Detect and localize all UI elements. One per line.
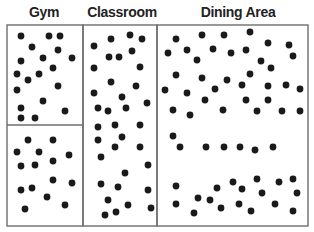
dot-dining-area bbox=[220, 107, 227, 114]
dot-dining-area bbox=[283, 82, 290, 89]
dot-gym-bottom bbox=[36, 149, 43, 156]
dot-dining-area bbox=[258, 58, 265, 65]
dot-gym-top bbox=[18, 33, 25, 40]
dot-dining-area bbox=[162, 87, 169, 94]
dot-gym-top bbox=[69, 55, 76, 62]
dot-dining-area bbox=[265, 40, 272, 47]
dot-gym-bottom bbox=[32, 162, 39, 169]
room-density-diagram bbox=[0, 0, 314, 232]
dot-dining-area bbox=[184, 90, 191, 97]
dot-classroom bbox=[139, 36, 146, 43]
dot-dining-area bbox=[187, 112, 194, 119]
dot-dining-area bbox=[212, 86, 219, 93]
dot-dining-area bbox=[276, 179, 283, 186]
dot-classroom bbox=[113, 209, 120, 216]
dot-dining-area bbox=[265, 97, 272, 104]
dot-gym-top bbox=[40, 55, 47, 62]
dot-gym-bottom bbox=[29, 185, 36, 192]
dot-classroom bbox=[127, 32, 134, 39]
dot-dining-area bbox=[239, 82, 246, 89]
dot-dining-area bbox=[173, 72, 180, 79]
dot-dining-area bbox=[221, 32, 228, 39]
dot-gym-bottom bbox=[22, 206, 29, 213]
dot-classroom bbox=[144, 100, 151, 107]
dot-classroom bbox=[91, 43, 98, 50]
dot-classroom bbox=[95, 124, 102, 131]
dot-dining-area bbox=[210, 46, 217, 53]
dot-dining-area bbox=[247, 29, 254, 36]
dot-classroom bbox=[145, 187, 152, 194]
dot-gym-bottom bbox=[50, 137, 57, 144]
dot-classroom bbox=[95, 105, 102, 112]
dot-classroom bbox=[112, 144, 119, 151]
dot-dining-area bbox=[173, 201, 180, 208]
dot-dining-area bbox=[228, 50, 235, 57]
dot-dining-area bbox=[170, 107, 177, 114]
dot-classroom bbox=[119, 94, 126, 101]
dot-classroom bbox=[98, 181, 105, 188]
dot-classroom bbox=[95, 137, 102, 144]
dot-dining-area bbox=[214, 185, 221, 192]
dot-dining-area bbox=[243, 97, 250, 104]
dot-gym-bottom bbox=[50, 177, 57, 184]
dot-gym-bottom bbox=[50, 158, 57, 165]
dot-dining-area bbox=[252, 147, 259, 154]
dot-dining-area bbox=[199, 75, 206, 82]
dot-dining-area bbox=[259, 190, 266, 197]
dot-gym-top bbox=[29, 44, 36, 51]
dot-dining-area bbox=[221, 144, 228, 151]
dot-gym-top bbox=[18, 105, 25, 112]
dot-dining-area bbox=[195, 195, 202, 202]
dot-dining-area bbox=[243, 47, 250, 54]
dot-gym-bottom bbox=[18, 163, 25, 170]
dot-dining-area bbox=[194, 57, 201, 64]
dot-dining-area bbox=[236, 201, 243, 208]
dot-dining-area bbox=[294, 190, 301, 197]
dot-dining-area bbox=[247, 71, 254, 78]
dot-dining-area bbox=[268, 65, 275, 72]
dot-dining-area bbox=[272, 201, 279, 208]
dot-classroom bbox=[106, 54, 113, 61]
dot-gym-bottom bbox=[25, 137, 32, 144]
dot-classroom bbox=[125, 202, 132, 209]
dot-gym-top bbox=[36, 71, 43, 78]
dot-dining-area bbox=[297, 86, 304, 93]
dot-classroom bbox=[102, 212, 109, 219]
dot-classroom bbox=[108, 79, 115, 86]
dot-dining-area bbox=[202, 97, 209, 104]
dot-dining-area bbox=[199, 32, 206, 39]
dot-dining-area bbox=[265, 83, 272, 90]
dot-classroom bbox=[98, 154, 105, 161]
dot-dining-area bbox=[254, 108, 261, 115]
dot-classroom bbox=[108, 36, 115, 43]
dot-classroom bbox=[105, 108, 112, 115]
dot-classroom bbox=[137, 144, 144, 151]
dot-dining-area bbox=[230, 179, 237, 186]
dot-gym-top bbox=[40, 98, 47, 105]
dot-dining-area bbox=[290, 176, 297, 183]
dot-gym-top bbox=[46, 33, 53, 40]
dot-dining-area bbox=[191, 210, 198, 217]
dot-classroom bbox=[112, 122, 119, 129]
dot-dining-area bbox=[290, 208, 297, 215]
dot-gym-bottom bbox=[18, 187, 25, 194]
dot-gym-top bbox=[55, 83, 62, 90]
dot-classroom bbox=[148, 205, 155, 212]
dot-gym-top bbox=[55, 47, 62, 54]
dot-dining-area bbox=[177, 144, 184, 151]
dot-dining-area bbox=[248, 208, 255, 215]
dot-gym-top bbox=[14, 87, 21, 94]
dot-dining-area bbox=[239, 186, 246, 193]
dot-classroom bbox=[105, 197, 112, 204]
dot-gym-top bbox=[62, 108, 69, 115]
dot-dining-area bbox=[286, 42, 293, 49]
dot-dining-area bbox=[290, 53, 297, 60]
dot-dining-area bbox=[184, 47, 191, 54]
people-dots bbox=[14, 29, 304, 219]
dot-classroom bbox=[137, 122, 144, 129]
dot-classroom bbox=[91, 65, 98, 72]
dot-dining-area bbox=[270, 144, 277, 151]
dot-gym-bottom bbox=[44, 194, 51, 201]
dot-gym-bottom bbox=[62, 202, 69, 209]
dot-dining-area bbox=[237, 144, 244, 151]
